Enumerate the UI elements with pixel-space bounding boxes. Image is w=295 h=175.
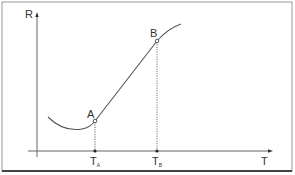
x-axis-arrow-icon: [268, 149, 273, 152]
x-axis-label: T: [261, 155, 268, 167]
tick-tb-label: TB: [152, 155, 163, 168]
point-a-label: A: [87, 108, 95, 120]
tick-tb-dot: [155, 149, 158, 152]
resistance-curve: [48, 24, 181, 130]
tick-ta-sub: A: [97, 162, 101, 168]
y-axis-label: R: [25, 8, 33, 20]
resistance-temperature-diagram: R T A B TA TB: [0, 0, 295, 175]
diagram-frame: [2, 2, 292, 171]
tick-tb-sub: B: [159, 162, 163, 168]
point-b-marker: [155, 39, 159, 43]
y-axis-arrow-icon: [35, 12, 38, 17]
tick-ta-label: TA: [90, 155, 101, 168]
point-b-label: B: [150, 27, 157, 39]
tick-ta-dot: [93, 149, 96, 152]
